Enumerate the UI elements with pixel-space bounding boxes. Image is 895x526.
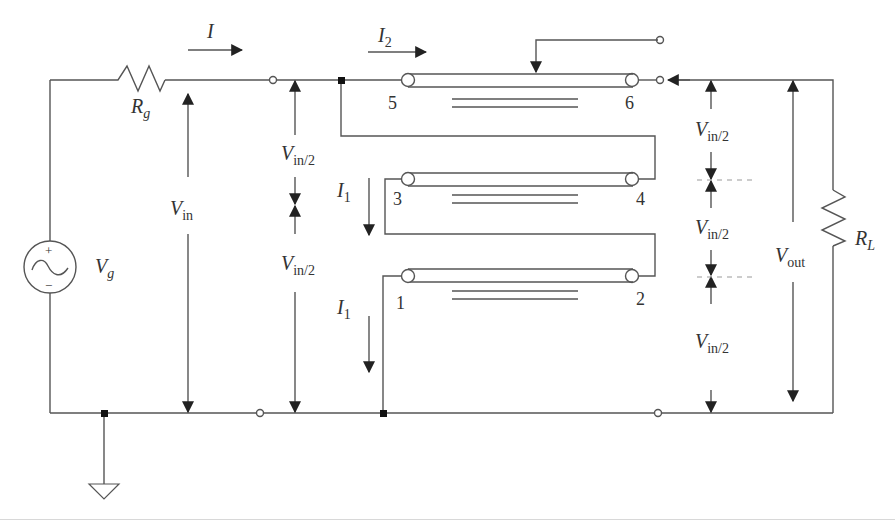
port-label-2: 2	[636, 289, 645, 309]
transmission-line-5-6	[402, 74, 639, 108]
terminal-output-top	[657, 77, 664, 84]
label-vg: Vg	[95, 255, 114, 281]
source-plus: +	[45, 243, 52, 258]
junction-ground	[101, 410, 108, 417]
port-label-4: 4	[636, 189, 645, 209]
transmission-line-3-4	[402, 173, 639, 204]
junction-bottom	[380, 410, 387, 417]
transmission-line-1-2	[402, 269, 639, 299]
junction-top	[338, 77, 345, 84]
label-current-i: I	[206, 20, 215, 42]
circuit-diagram: + − Vg Rg RL I I2 I1 I1 Vin Vin/2 Vin/2 …	[0, 0, 895, 526]
load-resistor-rl	[822, 190, 845, 246]
port-label-1: 1	[396, 293, 405, 313]
wire-line3-to-line2	[385, 179, 655, 276]
sine-icon	[32, 260, 68, 274]
label-right-half-1: Vin/2	[695, 118, 729, 144]
label-vin-half-upper: Vin/2	[281, 142, 315, 168]
label-current-i1-mid: I1	[336, 179, 351, 205]
label-vin: Vin	[170, 197, 193, 223]
label-rl: RL	[854, 227, 875, 253]
label-vin-half-lower: Vin/2	[281, 252, 315, 278]
label-current-i2: I2	[377, 24, 392, 50]
port-label-3: 3	[393, 189, 402, 209]
port-label-5: 5	[388, 93, 397, 113]
ground-icon	[89, 484, 119, 499]
terminal-output-bottom	[655, 410, 662, 417]
terminal-input-top	[270, 77, 277, 84]
source-minus: −	[45, 278, 52, 293]
wire-tap	[536, 40, 658, 72]
terminal-input-bottom	[257, 410, 264, 417]
label-rg: Rg	[130, 95, 150, 121]
label-current-i1-bottom: I1	[336, 296, 351, 322]
label-right-half-3: Vin/2	[695, 330, 729, 356]
bottom-divider	[0, 519, 895, 520]
label-vout: Vout	[775, 244, 805, 270]
source-resistor-rg	[110, 66, 165, 91]
label-right-half-2: Vin/2	[695, 216, 729, 242]
port-label-6: 6	[625, 93, 634, 113]
